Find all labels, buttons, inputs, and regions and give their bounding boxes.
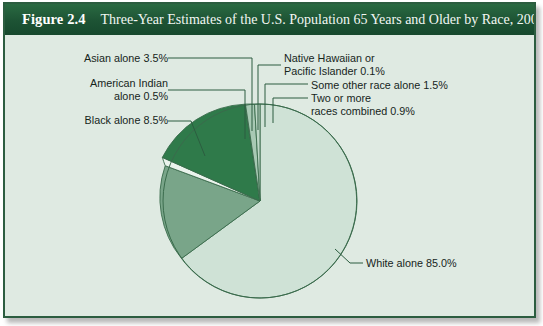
callout-two-or-more-line-1: Two or more (311, 92, 491, 105)
figure-number-label: Figure 2.4 (22, 11, 86, 28)
callout-white-alone: White alone 85.0% (366, 257, 526, 270)
callout-american-indian-line-2: alone 0.5% (23, 90, 168, 103)
callout-white-alone-text: White alone 85.0% (366, 257, 457, 269)
callout-native-hawaiian-pacific-islander: Native Hawaiian or Pacific Islander 0.1% (284, 52, 464, 79)
callout-some-other-race-text: Some other race alone 1.5% (311, 79, 448, 91)
callout-asian-alone-text: Asian alone 3.5% (84, 52, 168, 64)
callout-asian-alone: Asian alone 3.5% (23, 52, 168, 65)
page-title: Three-Year Estimates of the U.S. Populat… (101, 12, 536, 28)
callout-some-other-race-alone: Some other race alone 1.5% (311, 79, 511, 92)
callout-american-indian-line-1: American Indian (23, 77, 168, 90)
callout-black-alone-text: Black alone 8.5% (85, 114, 168, 126)
callout-two-or-more-races: Two or more races combined 0.9% (311, 92, 491, 119)
figure-title-bar: Figure 2.4 Three-Year Estimates of the U… (5, 4, 534, 35)
callout-american-indian-alone: American Indian alone 0.5% (23, 77, 168, 104)
callout-black-alone: Black alone 8.5% (23, 114, 168, 127)
callout-two-or-more-line-2: races combined 0.9% (311, 105, 491, 118)
figure-container: Figure 2.4 Three-Year Estimates of the U… (3, 2, 536, 318)
callout-native-hawaiian-line-2: Pacific Islander 0.1% (284, 65, 464, 78)
pie-chart-area: Asian alone 3.5% American Indian alone 0… (5, 35, 534, 316)
callout-native-hawaiian-line-1: Native Hawaiian or (284, 52, 464, 65)
